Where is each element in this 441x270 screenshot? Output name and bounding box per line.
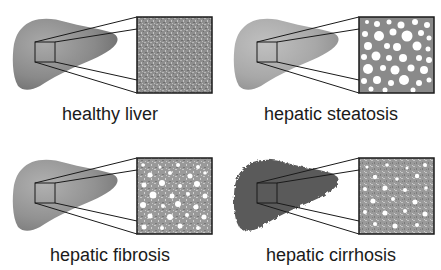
panel-healthy-liver: healthy liver (0, 0, 220, 135)
panel-hepatic-steatosis: hepatic steatosis (221, 0, 441, 135)
panel-label: healthy liver (0, 104, 220, 125)
liver-shape (234, 19, 339, 90)
magnified-tissue-cirrhosis (359, 158, 434, 234)
panel-label: hepatic steatosis (221, 104, 441, 125)
liver-shape (234, 160, 339, 231)
liver-shape (13, 160, 118, 231)
panel-label: hepatic cirrhosis (221, 245, 441, 266)
panel-hepatic-fibrosis: hepatic fibrosis (0, 141, 220, 270)
panel-hepatic-cirrhosis: hepatic cirrhosis (221, 141, 441, 270)
magnified-tissue-steatosis (359, 17, 434, 93)
magnified-tissue-fibrosis (137, 158, 212, 234)
magnified-tissue-healthy (137, 17, 212, 93)
liver-shape (13, 19, 118, 90)
panel-label: hepatic fibrosis (0, 245, 220, 266)
